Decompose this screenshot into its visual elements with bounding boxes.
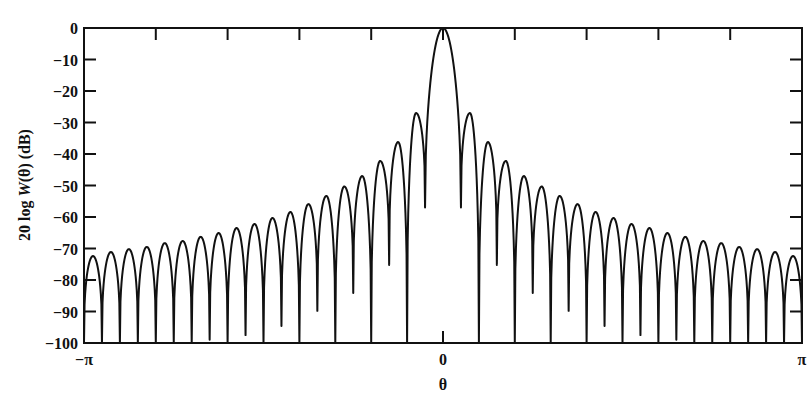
x-tick-label: π [798, 351, 807, 368]
y-tick-label: −30 [53, 115, 78, 132]
y-axis-title-prefix: 20 log [16, 197, 34, 241]
x-tick-label: 0 [439, 351, 447, 368]
y-tick-label: −90 [53, 304, 78, 321]
y-tick-label: −50 [53, 178, 78, 195]
y-axis-title: 20 log W(θ) (dB) [16, 129, 34, 241]
x-axis-ticks [156, 28, 730, 343]
y-tick-label: −100 [45, 335, 78, 352]
y-axis-ticks [84, 60, 802, 312]
y-axis-tick-labels: 0−10−20−30−40−50−60−70−80−90−100 [45, 20, 78, 352]
y-tick-label: −60 [53, 209, 78, 226]
window-response-curve [84, 28, 802, 343]
y-axis-title-suffix: (θ) (dB) [16, 129, 34, 182]
x-axis-tick-labels: −π0π [75, 351, 807, 368]
y-tick-label: −10 [53, 52, 78, 69]
x-axis-title: θ [439, 376, 447, 393]
y-tick-label: −70 [53, 241, 78, 258]
chart: 0−10−20−30−40−50−60−70−80−90−100 −π0π θ … [0, 0, 812, 397]
y-tick-label: −20 [53, 83, 78, 100]
x-tick-label: −π [75, 351, 93, 368]
y-tick-label: −80 [53, 272, 78, 289]
y-tick-label: −40 [53, 146, 78, 163]
y-tick-label: 0 [70, 20, 78, 37]
